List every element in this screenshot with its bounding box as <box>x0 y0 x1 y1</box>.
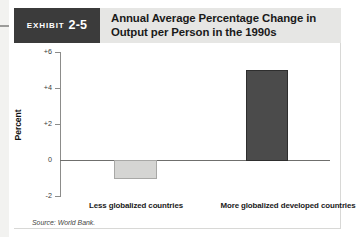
y-axis-tick-minus-2 <box>55 196 60 197</box>
bar-more-globalized-developed-countries <box>246 70 288 161</box>
bar-less-globalized-countries <box>114 160 157 179</box>
page-scan-edge <box>0 0 9 237</box>
y-axis-tick-6 <box>55 52 60 53</box>
exhibit-badge: Exhibit 2-5 <box>14 8 100 43</box>
exhibit-header: Exhibit 2-5 Annual Average Percentage Ch… <box>14 8 341 43</box>
y-axis-tick-label-0: 0 <box>28 156 52 163</box>
chart-panel: Percent +6 +4 +2 0 -2 Less globalized co… <box>14 43 341 229</box>
exhibit-title: Annual Average Percentage Change in Outp… <box>111 11 337 40</box>
x-axis-label-more-globalized: More globalized developed countries <box>192 201 360 210</box>
x-axis-label-less-globalized: Less globalized countries <box>60 201 212 210</box>
y-axis-line <box>60 52 61 197</box>
y-axis-tick-label-2: +2 <box>28 120 52 127</box>
page-scan-tick <box>0 25 9 27</box>
y-axis-tick-label-6: +6 <box>28 48 52 55</box>
zero-baseline <box>60 160 330 161</box>
exhibit-badge-number: 2-5 <box>69 19 88 32</box>
y-axis-label: Percent <box>13 95 23 155</box>
y-axis-tick-2 <box>55 124 60 125</box>
exhibit-badge-word: Exhibit <box>27 21 65 30</box>
y-axis-tick-4 <box>55 88 60 89</box>
y-axis-tick-label-minus-2: -2 <box>28 192 52 199</box>
y-axis-tick-label-4: +4 <box>28 84 52 91</box>
source-note: Source: World Bank. <box>32 219 95 226</box>
